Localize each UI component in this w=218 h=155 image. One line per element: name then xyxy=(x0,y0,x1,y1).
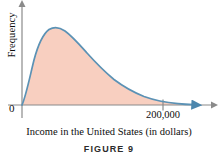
y-axis-label-text: Frequency xyxy=(6,12,17,57)
y-axis-label: Frequency xyxy=(4,0,18,71)
origin-label: 0 xyxy=(9,103,15,114)
distribution-area-fill xyxy=(22,28,196,105)
x-axis-label: Income in the United States (in dollars) xyxy=(0,126,218,137)
figure-caption: FIGURE 9 xyxy=(0,144,218,155)
x-axis-tick-label-200000: 200,000 xyxy=(132,110,194,121)
figure-container: Frequency 0 200,000 Income in the United… xyxy=(0,0,218,155)
